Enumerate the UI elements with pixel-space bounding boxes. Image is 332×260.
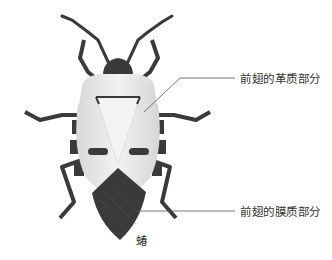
label-leathery-part: 前翅的革质部分	[240, 70, 321, 86]
wing-spot-left	[88, 148, 108, 155]
stink-bug-diagram: 前翅的革质部分 前翅的膜质部分 蝽	[0, 0, 332, 260]
wing-spot-right	[129, 148, 149, 155]
label-membranous-part: 前翅的膜质部分	[240, 203, 321, 219]
caption: 蝽	[136, 232, 148, 248]
stink-bug-illustration	[0, 0, 332, 260]
